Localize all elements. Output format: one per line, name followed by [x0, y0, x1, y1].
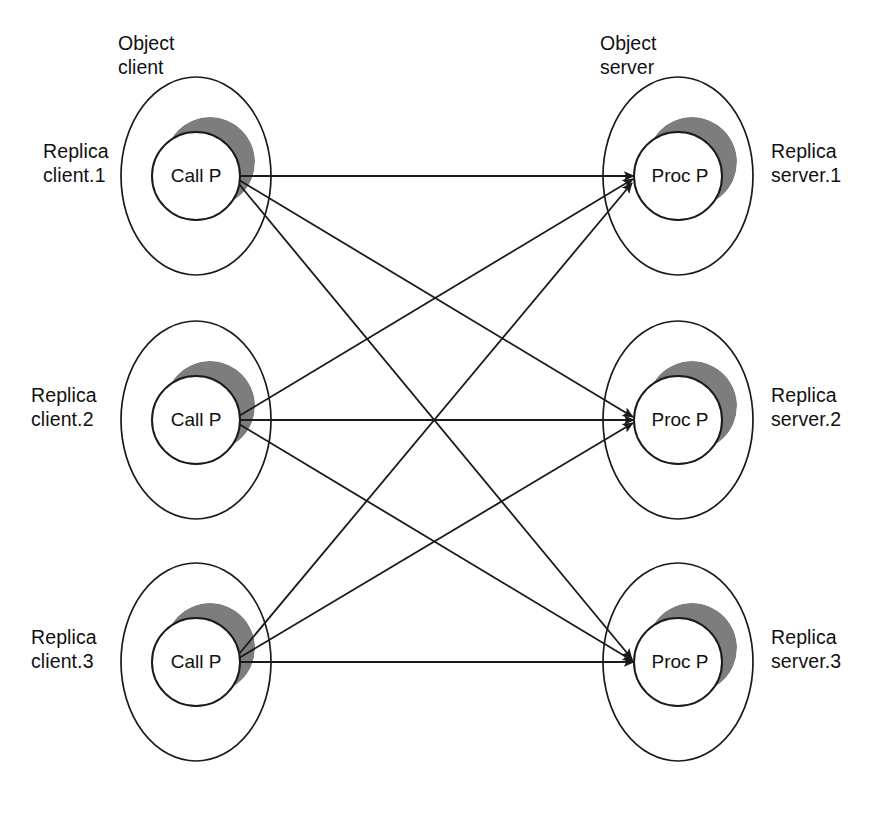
replica-client-1-label: Replica client.1 — [43, 139, 109, 187]
replica-client-3-label: Replica client.3 — [31, 625, 97, 673]
diagram-canvas: Call P Call P Call P Proc P Proc P Proc … — [0, 0, 870, 818]
replica-server-3-label: Replica server.3 — [771, 625, 841, 673]
edge-client2-server3 — [239, 424, 633, 661]
server-1-node-label: Proc P — [651, 165, 708, 186]
edge-client1-server3 — [239, 184, 632, 659]
replicated-invocation-diagram: Call P Call P Call P Proc P Proc P Proc … — [0, 0, 870, 818]
object-client-title: Object client — [118, 31, 174, 79]
client-3-node-label: Call P — [171, 651, 222, 672]
server-2-node-label: Proc P — [651, 409, 708, 430]
edge-client3-server2 — [239, 423, 633, 658]
server-3-node-label: Proc P — [651, 651, 708, 672]
object-server-title: Object server — [600, 31, 656, 79]
replica-client-2-label: Replica client.2 — [31, 383, 97, 431]
edge-client3-server1 — [239, 183, 632, 654]
client-2-node-label: Call P — [171, 409, 222, 430]
replica-server-2-label: Replica server.2 — [771, 383, 841, 431]
replica-server-1-label: Replica server.1 — [771, 139, 841, 187]
invocation-edges — [238, 176, 634, 662]
client-1-node-label: Call P — [171, 165, 222, 186]
